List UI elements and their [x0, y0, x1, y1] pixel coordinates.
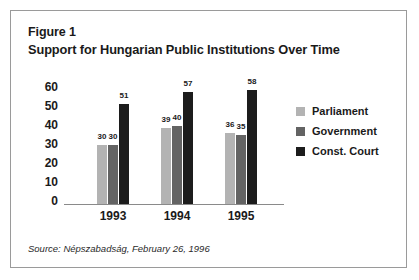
figure-title: Support for Hungarian Public Institution…	[28, 41, 388, 59]
source-note: Source: Népszabadság, February 26, 1996	[28, 243, 210, 255]
x-axis-line	[64, 204, 284, 205]
bar-group-1994: 39 40 57	[160, 86, 194, 204]
bar-1994-government: 40	[172, 126, 182, 204]
bar-group-1993: 30 30 51	[96, 86, 130, 204]
figure-title-block: Figure 1 Support for Hungarian Public In…	[28, 23, 388, 59]
bar-1993-court: 51	[119, 104, 129, 204]
legend-label-court: Const. Court	[312, 145, 379, 157]
x-axis: 1993 1994 1995	[64, 209, 284, 227]
y-tick-10: 10	[28, 176, 58, 188]
x-tick-1994: 1994	[157, 209, 197, 223]
bar-value-1994-court: 57	[184, 80, 193, 88]
bar-value-1995-court: 58	[248, 78, 257, 86]
legend-item-parliament: Parliament	[296, 103, 416, 119]
y-tick-20: 20	[28, 157, 58, 169]
bar-value-1993-government: 30	[109, 133, 118, 141]
figure-label: Figure 1	[28, 23, 388, 41]
plot-box: 30 30 51 39 40 57	[64, 87, 284, 205]
bar-value-1993-parliament: 30	[98, 133, 107, 141]
legend-swatch-court-icon	[296, 147, 305, 156]
y-tick-40: 40	[28, 119, 58, 131]
y-tick-0: 0	[28, 195, 58, 207]
bar-1993-parliament: 30	[97, 145, 107, 204]
bar-1993-government: 30	[108, 145, 118, 204]
bar-1995-parliament: 36	[225, 133, 235, 204]
legend-item-court: Const. Court	[296, 143, 416, 159]
bar-1995-court: 58	[247, 90, 257, 204]
y-tick-50: 50	[28, 100, 58, 112]
x-tick-1993: 1993	[93, 209, 133, 223]
legend-label-government: Government	[312, 125, 377, 137]
figure-frame: Figure 1 Support for Hungarian Public In…	[10, 10, 407, 268]
chart-legend: Parliament Government Const. Court	[296, 103, 416, 163]
y-tick-30: 30	[28, 138, 58, 150]
x-tick-1995: 1995	[221, 209, 261, 223]
legend-swatch-parliament-icon	[296, 107, 305, 116]
bar-value-1994-parliament: 39	[162, 116, 171, 124]
bar-value-1995-government: 35	[237, 123, 246, 131]
y-axis: 60 50 40 30 20 10 0	[28, 81, 58, 205]
bar-1994-court: 57	[183, 92, 193, 204]
chart-area: 60 50 40 30 20 10 0 30 30 51	[28, 81, 391, 231]
bar-group-1995: 36 35 58	[224, 86, 258, 204]
y-tick-60: 60	[28, 81, 58, 93]
bar-value-1994-government: 40	[173, 114, 182, 122]
legend-swatch-government-icon	[296, 127, 305, 136]
bar-1994-parliament: 39	[161, 128, 171, 204]
bar-value-1993-court: 51	[120, 92, 129, 100]
legend-item-government: Government	[296, 123, 416, 139]
bar-value-1995-parliament: 36	[226, 121, 235, 129]
bar-1995-government: 35	[236, 135, 246, 204]
legend-label-parliament: Parliament	[312, 105, 368, 117]
